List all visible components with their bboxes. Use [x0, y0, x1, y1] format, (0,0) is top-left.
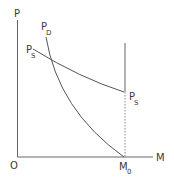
m0-subscript: 0 — [127, 168, 131, 176]
diagram-canvas: P M O P D P S P S M 0 — [0, 0, 174, 187]
supply-curve — [33, 49, 124, 92]
x-axis-label: M — [156, 152, 165, 163]
demand-curve — [46, 37, 124, 157]
demand-curve-subscript: D — [46, 29, 51, 37]
origin-label: O — [10, 160, 18, 171]
supply-curve-start-subscript: S — [31, 52, 36, 60]
supply-curve-end-subscript: S — [134, 99, 139, 107]
y-axis-label: P — [14, 8, 20, 19]
